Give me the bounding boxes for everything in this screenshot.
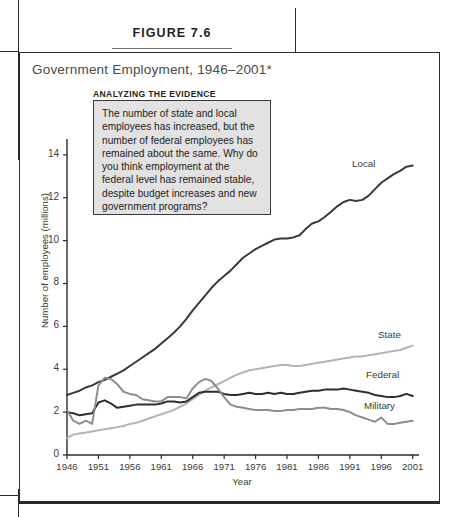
y-axis-tick-label: 6 [33, 319, 59, 330]
analyzing-the-evidence-box: The number of state and local employees … [93, 100, 271, 215]
y-axis-tick-label: 8 [33, 276, 59, 287]
figure-label-underline [112, 48, 232, 49]
series-label-state: State [378, 329, 401, 340]
page-rule-top [0, 51, 18, 52]
series-label-federal: Federal [366, 369, 399, 380]
chart-title: Government Employment, 1946–2001* [32, 62, 272, 77]
y-axis-tick-label: 14 [33, 148, 59, 159]
y-axis-tick-label: 10 [33, 234, 59, 245]
y-axis-tick-label: 12 [33, 191, 59, 202]
y-axis-tick-label: 4 [33, 362, 59, 373]
page-rule-bottom-stub [0, 495, 20, 496]
figure-label: FIGURE 7.6 [112, 26, 232, 40]
analyzing-the-evidence-header: ANALYZING THE EVIDENCE [93, 89, 216, 99]
page-rule-bottom-thick [19, 502, 440, 504]
x-axis-title: Year [67, 476, 417, 487]
y-axis-tick-label: 0 [33, 448, 59, 459]
analyzing-the-evidence-text: The number of state and local employees … [102, 107, 262, 213]
y-axis-tick-label: 2 [33, 405, 59, 416]
x-axis-tick-label: 2001 [391, 461, 435, 472]
series-label-military: Military [364, 400, 395, 411]
series-label-local: Local [352, 158, 375, 169]
